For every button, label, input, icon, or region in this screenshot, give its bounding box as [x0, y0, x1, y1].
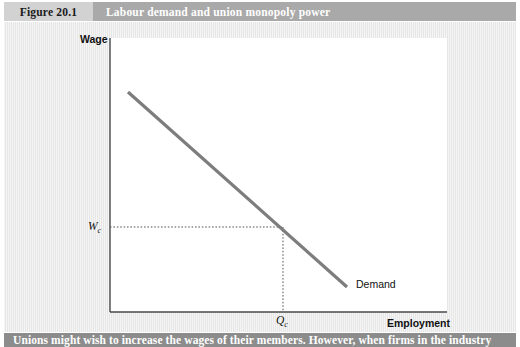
figure-title-box: Labour demand and union monopoly power: [93, 2, 516, 21]
wage-tick-symbol: W: [88, 220, 98, 232]
employment-tick-subscript: c: [284, 320, 288, 329]
figure-title-label: Labour demand and union monopoly power: [106, 6, 330, 18]
employment-tick-label: Qc: [276, 314, 288, 326]
y-axis-title: Wage: [80, 33, 108, 45]
demand-curve: [128, 92, 347, 287]
caption-text: Unions might wish to increase the wages …: [13, 334, 491, 346]
caption-bar: Unions might wish to increase the wages …: [4, 333, 516, 347]
figure-canvas: Wage Employment Wc Qc Demand: [4, 22, 516, 332]
figure-number-box: Figure 20.1: [4, 2, 93, 21]
wage-tick-subscript: c: [98, 226, 102, 235]
figure-page: Figure 20.1 Labour demand and union mono…: [0, 0, 520, 347]
wage-tick-label: Wc: [88, 220, 101, 232]
x-axis-title: Employment: [387, 317, 450, 329]
figure-header: Figure 20.1 Labour demand and union mono…: [4, 2, 516, 21]
chart-graphic: [4, 22, 516, 332]
demand-curve-label: Demand: [356, 278, 396, 290]
figure-number-label: Figure 20.1: [20, 6, 78, 18]
